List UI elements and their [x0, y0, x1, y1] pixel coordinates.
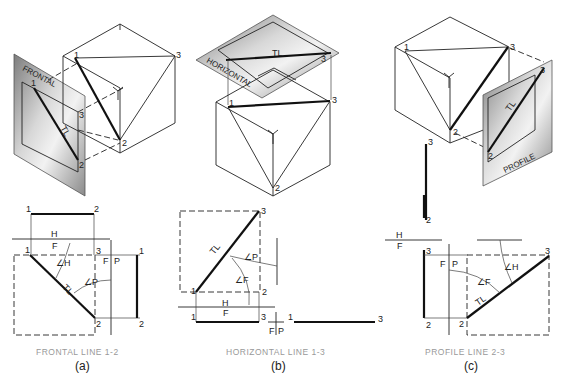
point-2-label: 2 — [453, 127, 458, 137]
panel-b-pictorial: HORIZONTAL TL 3 1 3 2 — [196, 15, 339, 196]
fold-h-label: H — [222, 298, 229, 308]
point-2-label: 2 — [426, 215, 431, 225]
point-2-label: 2 — [262, 287, 267, 297]
fold-f-label: F — [103, 256, 109, 266]
fold-f-label: F — [440, 259, 446, 269]
point-3-label: 3 — [96, 246, 101, 256]
angle-h-label: ∠H — [56, 258, 71, 268]
line-1-3 — [228, 101, 330, 107]
tl-label: TL — [61, 282, 76, 297]
cube-edge — [63, 56, 120, 88]
cube-diagonal — [75, 56, 175, 58]
tl-label: TL — [208, 242, 222, 256]
point-3-label: 3 — [332, 95, 337, 105]
projector — [48, 64, 76, 80]
cube-diagonal — [405, 47, 508, 51]
panel-c-pictorial: 1 3 2 3 2 TL PROFILE 3 — [395, 17, 552, 220]
frontal-plane — [14, 54, 85, 196]
panel-a-orthographic: 1 2 H F F P 1 3 2 TL ∠H ∠P 1 2 FRONTAL L… — [12, 204, 144, 373]
cube-diagonal — [405, 51, 450, 130]
panel-a-pictorial: FRONTAL 1 3 2 TL 1 3 2 — [14, 24, 181, 196]
fold-p-label: P — [452, 259, 458, 269]
fold-f-label: F — [223, 308, 229, 318]
point-3-label: 3 — [540, 65, 545, 75]
point-3-label: 3 — [426, 246, 431, 256]
point-1-label: 1 — [31, 78, 36, 88]
sublabel-c: (c) — [464, 359, 478, 373]
point-1-label: 1 — [229, 98, 234, 108]
point-1-label: 1 — [191, 312, 196, 322]
point-2-label: 2 — [94, 204, 99, 214]
point-1-label: 1 — [288, 312, 293, 322]
point-2-label: 2 — [96, 319, 101, 329]
point-3-label: 3 — [261, 312, 266, 322]
point-3-label: 3 — [545, 246, 550, 256]
point-1-label: 1 — [26, 204, 31, 214]
point-2-label: 2 — [426, 320, 431, 330]
panel-c-orthographic: 2 H F 3 2 F P 2 3 TL ∠H ∠F PROFILE LINE … — [385, 195, 550, 373]
point-2-label: 2 — [139, 319, 144, 329]
tl-label: TL — [473, 293, 487, 307]
fold-p-label: P — [114, 256, 120, 266]
angle-f-arc — [449, 270, 500, 293]
cube-diagonal — [228, 107, 273, 188]
point-3-label: 3 — [261, 206, 266, 216]
caption-c: PROFILE LINE 2-3 — [425, 347, 505, 357]
point-2-label: 2 — [488, 151, 493, 161]
fold-h-label: H — [396, 230, 403, 240]
point-1-label: 1 — [404, 42, 409, 52]
fold-p-label: P — [278, 326, 284, 336]
projector — [510, 48, 544, 62]
tl-label: TL — [272, 48, 283, 58]
angle-p-label: ∠P — [84, 277, 98, 287]
projector — [85, 143, 120, 160]
fold-h-label: H — [51, 229, 58, 239]
angle-f-label: ∠F — [477, 277, 491, 287]
cube-diagonal — [273, 101, 330, 188]
angle-f-label: ∠F — [235, 275, 249, 285]
caption-a: FRONTAL LINE 1-2 — [36, 347, 119, 357]
point-1-label: 1 — [191, 286, 196, 296]
sublabel-a: (a) — [75, 359, 90, 373]
fold-f-label: F — [52, 241, 58, 251]
caption-b: HORIZONTAL LINE 1-3 — [226, 347, 325, 357]
angle-p-label: ∠P — [244, 252, 258, 262]
orthographic-lines-figure: FRONTAL 1 3 2 TL 1 3 2 HORIZONTAL TL 3 — [0, 0, 565, 390]
fold-f-label: F — [269, 326, 275, 336]
point-1-label: 1 — [139, 246, 144, 256]
point-1-label: 1 — [25, 245, 30, 255]
point-2-label: 2 — [459, 319, 464, 329]
point-1-label: 1 — [74, 50, 79, 60]
point-3-label: 3 — [176, 50, 181, 60]
point-3-label: 3 — [378, 314, 383, 324]
panel-b-orthographic: 3 1 2 TL ∠P ∠F H F 1 3 F P 1 3 HORIZONTA… — [178, 206, 383, 373]
point-3-label: 3 — [321, 54, 326, 64]
point-2-label: 2 — [79, 160, 84, 170]
point-2-label: 2 — [275, 183, 280, 193]
point-3-label: 3 — [428, 137, 433, 147]
point-3-label: 3 — [510, 42, 515, 52]
front-view-frame — [14, 255, 95, 335]
angle-h-label: ∠H — [504, 262, 519, 272]
point-2-label: 2 — [122, 138, 127, 148]
fold-f-label: F — [397, 241, 403, 251]
sublabel-b: (b) — [271, 359, 286, 373]
